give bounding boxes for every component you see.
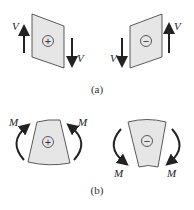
caption-a: (a) [91,83,104,96]
moment-label-right: M [166,167,177,179]
positive-shear-element: + V V [12,14,85,68]
negative-shear-element: − V V [110,14,182,68]
positive-sign: + [45,35,51,47]
moment-arc-arrow-icon [170,129,180,162]
caption-b: (b) [91,184,104,197]
moment-arc-arrow-icon [114,129,124,162]
negative-moment-element: − M M [113,120,180,180]
sign-convention-diagram: + V V − V V (a) + M M − M M (b) [0,0,194,210]
positive-sign: + [45,136,51,148]
shear-label-right: V [77,52,85,64]
moment-label-left: M [113,167,124,179]
negative-sign: − [143,35,149,47]
negative-sign: − [144,135,150,147]
shear-label-left: V [110,52,118,64]
shear-label-right: V [174,20,182,32]
moment-label-left: M [8,116,19,128]
moment-label-right: M [77,116,88,128]
moment-arc-arrow-icon [71,127,81,160]
shear-label-left: V [12,20,20,32]
moment-arc-arrow-icon [16,127,26,160]
positive-moment-element: + M M [8,116,88,165]
